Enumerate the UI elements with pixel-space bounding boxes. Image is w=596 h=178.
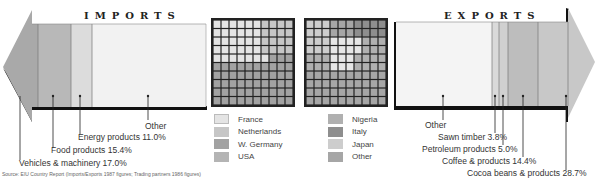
swatch-w-germany xyxy=(214,139,229,149)
exports-label-petroleum: Petroleum products 5.0% xyxy=(422,144,517,154)
exports-band-timber xyxy=(492,22,499,106)
swatch-netherlands xyxy=(214,127,229,137)
imports-label-other: Other xyxy=(145,121,166,131)
swatch-usa xyxy=(214,152,229,162)
imports-label-energy: Energy products 11.0% xyxy=(78,132,166,142)
legend-item-other: Other xyxy=(328,151,377,164)
legend-item-france: France xyxy=(214,113,282,126)
exports-band-cocoa xyxy=(538,8,595,118)
source-note: Source: EIU Country Report (Imports/Expo… xyxy=(2,171,201,177)
exports-label-timber: Sawn timber 3.8% xyxy=(438,132,507,142)
imports-band-food xyxy=(38,24,71,107)
exports-partner-grid xyxy=(304,18,388,107)
imports-label-vehicles: Vehicles & machinery 17.0% xyxy=(19,158,127,168)
exports-title: EXPORTS xyxy=(444,10,540,21)
exports-label-coffee: Coffee & products 14.4% xyxy=(442,156,536,166)
swatch-italy xyxy=(328,127,343,137)
imports-title: IMPORTS xyxy=(84,10,181,21)
legend-item-italy: Italy xyxy=(328,126,377,139)
exports-band-petroleum xyxy=(499,22,508,106)
exports-band-other xyxy=(396,22,492,106)
swatch-other xyxy=(328,152,343,162)
imports-band-other xyxy=(92,24,206,107)
imports-partner-grid xyxy=(211,18,295,107)
exports-label-other: Other xyxy=(425,120,446,130)
swatch-japan xyxy=(328,139,343,149)
legend-item-usa: USA xyxy=(214,151,282,164)
exports-legend: Nigeria Italy Japan Other xyxy=(328,113,377,163)
legend-item-japan: Japan xyxy=(328,138,377,151)
legend-item-nigeria: Nigeria xyxy=(328,113,377,126)
imports-legend: France Netherlands W. Germany USA xyxy=(214,113,282,163)
legend-item-w-germany: W. Germany xyxy=(214,138,282,151)
exports-label-cocoa: Cocoa beans & products 28.7% xyxy=(467,168,587,178)
imports-band-energy xyxy=(71,24,92,107)
swatch-france xyxy=(214,114,229,124)
swatch-nigeria xyxy=(328,114,343,124)
exports-band-coffee xyxy=(508,22,538,106)
imports-label-food: Food products 15.4% xyxy=(51,145,132,155)
legend-item-netherlands: Netherlands xyxy=(214,126,282,139)
